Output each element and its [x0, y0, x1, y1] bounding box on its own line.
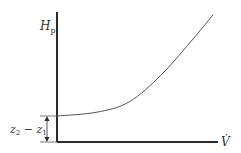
arrow-down-icon	[45, 137, 50, 142]
static-head-label: z2 − z1	[9, 123, 47, 137]
diagram: Hp V̇ z2 − z1	[0, 0, 241, 153]
arrow-up-icon	[45, 116, 50, 121]
system-curve	[57, 15, 213, 116]
y-axis-label: Hp	[39, 19, 56, 35]
x-axis-label: V̇	[221, 134, 231, 149]
